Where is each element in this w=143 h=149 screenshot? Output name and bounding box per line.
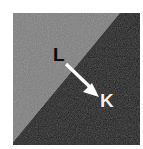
region-label-L: L	[53, 45, 65, 64]
micrograph-panel: L K	[13, 13, 140, 145]
micrograph-image	[13, 13, 140, 145]
region-label-K: K	[100, 91, 114, 110]
figure-root: L K	[0, 0, 143, 149]
